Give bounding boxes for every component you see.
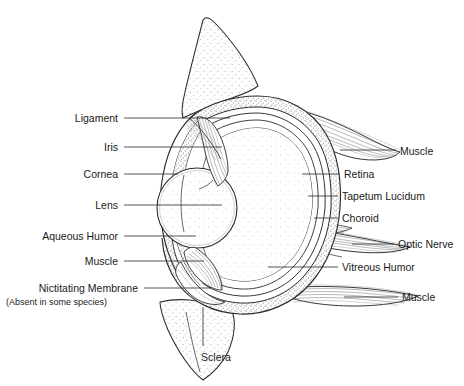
label-tapetum-lucidum: Tapetum Lucidum <box>342 190 425 202</box>
labels-right-group: Muscle Retina Tapetum Lucidum Choroid Op… <box>342 145 454 303</box>
label-muscle-lower-left: Muscle <box>85 255 118 267</box>
labels-left-group: Ligament Iris Cornea Lens Aqueous Humor … <box>6 112 138 307</box>
label-iris: Iris <box>104 141 118 153</box>
label-vitreous-humor: Vitreous Humor <box>342 261 415 273</box>
label-nictitating-membrane: Nictitating Membrane <box>39 282 138 294</box>
label-optic-nerve: Optic Nerve <box>398 238 454 250</box>
label-nictitating-note: (Absent in some species) <box>6 297 107 307</box>
label-retina: Retina <box>344 168 375 180</box>
labels-bottom-group: Sclera <box>201 351 231 363</box>
label-lens: Lens <box>95 199 118 211</box>
label-aqueous-humor: Aqueous Humor <box>42 230 118 242</box>
label-ligament: Ligament <box>75 112 118 124</box>
eye-cross-section-illustration: Ligament Iris Cornea Lens Aqueous Humor … <box>0 0 464 386</box>
label-sclera: Sclera <box>201 351 231 363</box>
label-muscle-upper-right: Muscle <box>400 145 433 157</box>
label-cornea: Cornea <box>84 168 119 180</box>
label-muscle-lower-right: Muscle <box>402 291 435 303</box>
eye-anatomy-diagram: Ligament Iris Cornea Lens Aqueous Humor … <box>0 0 464 386</box>
label-choroid: Choroid <box>342 212 379 224</box>
